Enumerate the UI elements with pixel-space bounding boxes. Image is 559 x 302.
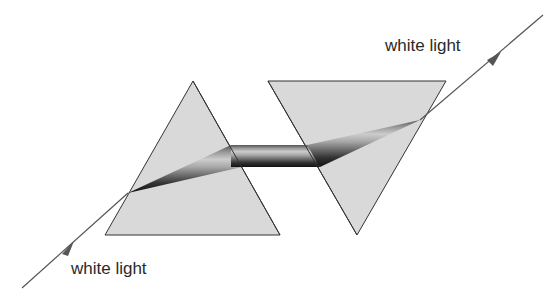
ray-out — [420, 15, 543, 120]
prism-diagram — [0, 0, 559, 302]
label-output-white-light: white light — [385, 36, 461, 56]
arrow-out-icon — [487, 52, 501, 66]
arrow-in-icon — [62, 241, 74, 256]
label-input-white-light: white light — [71, 259, 147, 279]
